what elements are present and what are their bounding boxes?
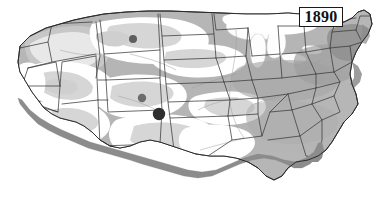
us-map-graphic: [0, 0, 388, 211]
marker-new-mexico: [153, 108, 165, 120]
marker-montana: [129, 35, 137, 43]
marker-colorado: [138, 94, 146, 102]
map-figure: 1890: [0, 0, 388, 211]
year-label-box: 1890: [299, 7, 343, 27]
